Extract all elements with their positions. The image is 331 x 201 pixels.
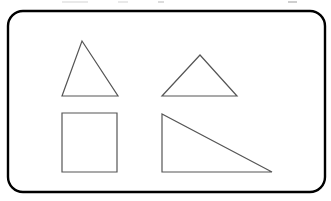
shapes-figure [0,0,331,201]
figure-canvas [0,0,331,201]
rounded-rectangle-frame [8,11,325,192]
